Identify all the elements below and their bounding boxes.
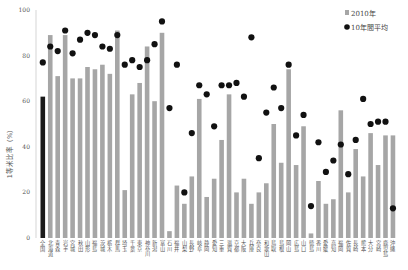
y-axis-label: 1等米比率（%）	[5, 126, 14, 178]
bar	[160, 33, 165, 238]
x-tick-label: 静岡	[204, 239, 210, 253]
x-tick-label: 群馬	[115, 239, 120, 253]
average-dot	[137, 64, 143, 70]
bar	[182, 204, 187, 238]
average-dot	[241, 94, 247, 100]
y-tick-label: 0	[26, 234, 30, 241]
x-tick-label: 東京	[137, 239, 142, 253]
x-tick-label: 鹿児島	[383, 239, 388, 258]
x-tick-label: 和歌山	[264, 239, 270, 258]
x-tick-label: 佐賀	[346, 239, 351, 253]
average-dot	[70, 50, 76, 56]
x-tick-label: 茨城	[100, 239, 106, 253]
average-dot	[233, 80, 239, 86]
average-dot	[286, 62, 292, 68]
average-dot	[271, 84, 277, 90]
average-dot	[368, 121, 374, 127]
x-tick-label: 島根	[279, 239, 284, 253]
average-dot	[338, 141, 344, 147]
bar	[145, 46, 150, 238]
average-dot	[382, 119, 388, 125]
bar	[346, 192, 351, 238]
bar	[376, 165, 381, 238]
x-tick-label: 神奈川	[145, 239, 151, 257]
x-tick-label: 香川	[316, 239, 321, 252]
bar	[219, 140, 224, 238]
bar	[324, 204, 329, 238]
bar	[137, 83, 142, 238]
y-axis: 020406080100	[19, 6, 36, 241]
y-tick-label: 80	[22, 52, 30, 59]
x-tick-label: 長崎	[353, 240, 359, 252]
average-dot	[204, 91, 210, 97]
x-tick-label: 長野	[189, 240, 195, 252]
bar	[63, 35, 68, 238]
bar	[190, 176, 195, 238]
average-dot	[107, 46, 113, 52]
x-tick-label: 栃木	[107, 239, 113, 253]
bar	[85, 67, 90, 238]
average-dot	[308, 203, 314, 209]
average-dot	[353, 137, 359, 143]
x-tick-label: 山口	[301, 239, 306, 253]
x-tick-label: 秋田	[78, 239, 84, 253]
legend-label-2010: 2010年	[351, 9, 376, 18]
legend-label-average: 10年間平均	[351, 23, 388, 32]
average-dot	[375, 119, 381, 125]
bar	[309, 233, 314, 238]
average-dot	[196, 82, 202, 88]
average-dot	[360, 96, 366, 102]
average-dot	[166, 105, 172, 111]
bar	[301, 126, 306, 238]
y-tick-label: 40	[22, 143, 30, 150]
x-tick-label: 兵庫	[249, 239, 254, 253]
x-tick-label: 福島	[92, 239, 97, 253]
average-dot	[151, 41, 157, 47]
average-dot	[144, 57, 150, 63]
average-dot	[345, 171, 351, 177]
x-tick-label: 愛媛	[323, 239, 329, 253]
average-dot	[256, 155, 262, 161]
bar	[294, 165, 299, 238]
average-dot	[174, 62, 180, 68]
x-tick-label: 山形	[85, 239, 91, 253]
average-dot	[323, 169, 329, 175]
average-dot	[62, 27, 68, 33]
average-dot	[293, 132, 299, 138]
x-tick-label: 熊本	[361, 239, 366, 253]
average-dot	[129, 57, 135, 63]
bar-series-2010	[41, 31, 396, 238]
average-dot	[300, 112, 306, 118]
bar	[204, 197, 209, 238]
x-tick-label: 北海道	[48, 239, 54, 258]
average-dot	[77, 37, 83, 43]
y-tick-label: 60	[22, 97, 30, 104]
x-tick-label: 奈良	[256, 239, 262, 253]
x-tick-label: 石川	[167, 240, 172, 252]
bar	[339, 110, 344, 238]
bar	[108, 74, 113, 238]
average-dot	[248, 34, 254, 40]
bar	[70, 78, 75, 238]
x-tick-label: 岐阜	[197, 239, 202, 253]
legend-bar-swatch	[345, 10, 349, 15]
bar	[115, 31, 120, 238]
x-tick-label: 新潟	[152, 239, 157, 253]
x-tick-label: 富山	[160, 239, 165, 253]
bar	[316, 181, 321, 238]
x-tick-label: 徳島	[309, 239, 315, 253]
x-tick-label: 青森	[55, 239, 61, 253]
bar	[197, 99, 202, 238]
x-tick-label: 岩手	[63, 239, 68, 253]
bar	[212, 179, 217, 238]
bar	[286, 69, 291, 238]
bar	[234, 192, 239, 238]
bar	[242, 179, 247, 238]
bar	[78, 78, 83, 238]
average-dot	[263, 110, 269, 116]
legend-dot-swatch	[344, 24, 350, 30]
bar	[257, 192, 262, 238]
bar	[48, 35, 53, 238]
x-tick-label: 福井	[174, 239, 179, 253]
average-dot	[226, 82, 232, 88]
